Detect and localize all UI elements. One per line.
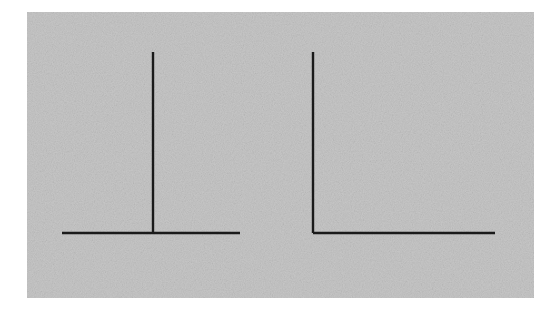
stimulus-panel-group [27,12,534,298]
figure-root [0,0,557,312]
stimulus-panel [27,12,534,298]
stimulus-canvas [0,0,557,312]
